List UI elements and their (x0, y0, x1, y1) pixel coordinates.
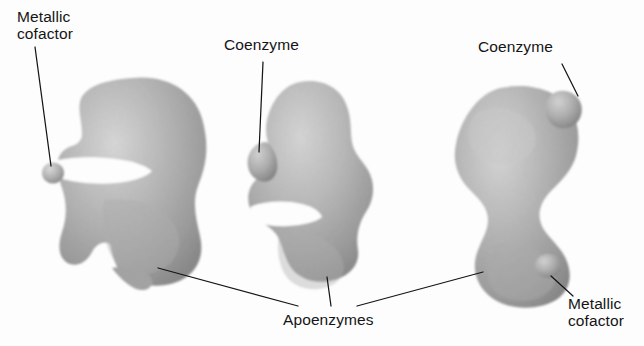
left-metallic-cofactor-bead (42, 163, 64, 184)
middle-apoenzyme-shape (248, 81, 374, 289)
leader-apoenzyme-right (357, 272, 483, 306)
leader-coenzyme-middle (259, 62, 263, 152)
label-apoenzymes: Apoenzymes (283, 311, 374, 328)
label-coenzyme-middle: Coenzyme (224, 36, 299, 53)
leader-apoenzyme-left (158, 268, 298, 306)
leader-metallic-cofactor-left (35, 47, 51, 166)
label-coenzyme-right: Coenzyme (478, 38, 553, 55)
enzyme-cofactor-diagram: Metallic cofactor Coenzyme Coenzyme Apoe… (0, 0, 644, 346)
label-metallic-cofactor-right: Metallic cofactor (568, 295, 624, 329)
left-apoenzyme-shape (42, 77, 206, 290)
label-metallic-cofactor-left: Metallic cofactor (17, 8, 73, 42)
right-coenzyme-bump (546, 91, 582, 129)
right-metallic-cofactor-bead (535, 254, 561, 278)
